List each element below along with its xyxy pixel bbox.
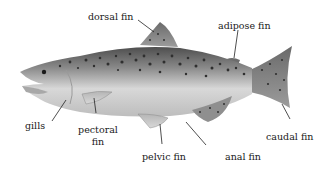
fish-illustration xyxy=(0,0,330,169)
label-dorsal-fin: dorsal fin xyxy=(88,12,133,22)
fish-anatomy-diagram: dorsal fin adipose fin gills pectoral fi… xyxy=(0,0,330,169)
caudal-fin xyxy=(250,46,292,108)
label-caudal-fin: caudal fin xyxy=(266,132,313,142)
label-anal-fin: anal fin xyxy=(225,152,261,162)
label-gills: gills xyxy=(25,121,45,131)
label-pelvic-fin: pelvic fin xyxy=(142,152,186,162)
label-pectoral-fin-line1: pectoral xyxy=(78,125,118,135)
label-pectoral-fin-line2: fin xyxy=(78,137,118,147)
eye xyxy=(42,70,46,74)
label-adipose-fin: adipose fin xyxy=(218,21,271,31)
